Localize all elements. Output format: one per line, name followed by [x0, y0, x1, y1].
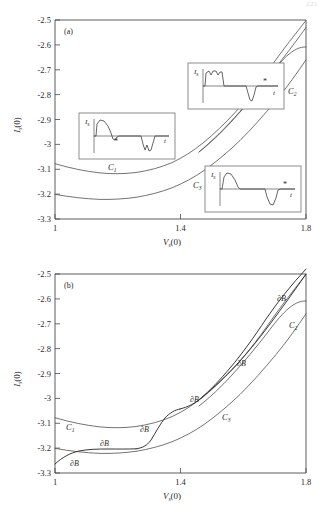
- panel-b: -2.5 -2.6 -2.7 -2.8 -2.9 -3 -3.1 -3.2 -3…: [0, 254, 324, 508]
- y-tick-7: -3.2: [38, 443, 51, 453]
- panel-a-label-c3: C3: [193, 180, 202, 191]
- y-tick-6: -3.1: [38, 418, 51, 428]
- panel-b-axes: [55, 274, 306, 473]
- panel-b-db-label-3: ∂B: [140, 425, 149, 434]
- panel-a-y-axis-label: Is(0): [12, 117, 23, 134]
- y-tick-2: -2.7: [38, 319, 51, 329]
- panel-b-boundary-upper: [180, 269, 306, 409]
- panel-b-plot: -2.5 -2.6 -2.7 -2.8 -2.9 -3 -3.1 -3.2 -3…: [0, 254, 324, 508]
- svg-text:Vs(0): Vs(0): [163, 491, 181, 502]
- inset-marker-br: *: [283, 180, 287, 189]
- panel-b-db-label-1: ∂B: [70, 459, 79, 468]
- x-tick-2: 1.8: [301, 477, 312, 487]
- y-axis-label-tail: (0): [12, 117, 22, 128]
- panel-b-db-label-2: ∂B: [100, 439, 109, 448]
- panel-b-x-ticklabels: 1 1.4 1.8: [53, 477, 311, 487]
- svg-text:Is(0): Is(0): [12, 117, 23, 134]
- panel-b-tag: (b): [64, 281, 74, 290]
- y-tick-8: -3.3: [38, 214, 51, 224]
- panel-b-y-ticklabels: -2.5 -2.6 -2.7 -2.8 -2.9 -3 -3.1 -3.2 -3…: [38, 269, 51, 478]
- panel-b-db-label-6: ∂B: [277, 294, 286, 303]
- x-tick-1: 1.4: [175, 477, 186, 487]
- panel-b-boundary-lower-left: [55, 449, 136, 464]
- panel-a-y-ticklabels: -2.5 -2.6 -2.7 -2.8 -2.9 -3 -3.1 -3.2 -3…: [38, 15, 51, 224]
- panel-a-y-ticks: [55, 20, 60, 219]
- panel-a-label-c2: C2: [288, 86, 297, 97]
- panel-a-x-ticklabels: 1 1.4 1.8: [53, 223, 311, 233]
- svg-text:Is(0): Is(0): [12, 371, 23, 388]
- inset-marker-tr: *: [263, 77, 267, 86]
- figure-container: -2.5 -2.6 -2.7 -2.8 -2.9 -3 -3.1 -3.2 -3…: [0, 0, 324, 508]
- panel-b-curve-c1: [55, 275, 306, 428]
- x-axis-label-tail: (0): [171, 491, 182, 501]
- panel-b-db-label-5: ∂B: [237, 359, 246, 368]
- x-axis-label-tail: (0): [171, 237, 182, 247]
- y-tick-6: -3.1: [38, 164, 51, 174]
- y-tick-1: -2.6: [38, 294, 51, 304]
- y-tick-5: -3: [44, 393, 51, 403]
- y-tick-1: -2.6: [38, 40, 51, 50]
- panel-a-inset-middle-left: Is t *: [79, 113, 175, 159]
- x-tick-0: 1: [53, 223, 57, 233]
- y-tick-8: -3.3: [38, 468, 51, 478]
- y-tick-3: -2.8: [38, 344, 51, 354]
- panel-b-x-ticks: [55, 468, 306, 473]
- panel-b-db-label-4: ∂B: [190, 395, 199, 404]
- panel-b-y-ticks: [55, 274, 60, 473]
- y-axis-label-tail: (0): [12, 371, 22, 382]
- panel-a-x-axis-label: Vs(0): [163, 237, 181, 248]
- svg-text:Vs(0): Vs(0): [163, 237, 181, 248]
- panel-b-x-axis-label: Vs(0): [163, 491, 181, 502]
- x-tick-0: 1: [53, 477, 57, 487]
- y-tick-4: -2.9: [38, 115, 51, 125]
- panel-b-curve-c3: [55, 314, 306, 454]
- panel-a-tag: (a): [64, 27, 73, 36]
- panel-b-label-c2: C2: [289, 320, 298, 331]
- panel-b-label-c3: C3: [222, 412, 231, 423]
- panel-a-inset-bottom-right: Is t *: [205, 166, 301, 212]
- y-tick-5: -3: [44, 139, 51, 149]
- x-tick-2: 1.8: [301, 223, 312, 233]
- y-tick-7: -3.2: [38, 189, 51, 199]
- panel-a: -2.5 -2.6 -2.7 -2.8 -2.9 -3 -3.1 -3.2 -3…: [0, 0, 324, 254]
- y-tick-4: -2.9: [38, 369, 51, 379]
- y-tick-0: -2.5: [38, 269, 51, 279]
- panel-a-plot: -2.5 -2.6 -2.7 -2.8 -2.9 -3 -3.1 -3.2 -3…: [0, 0, 324, 254]
- panel-a-x-ticks: [55, 214, 306, 219]
- panel-a-inset-top-right: Is t *: [188, 63, 284, 109]
- inset-marker-ml: *: [114, 137, 118, 146]
- x-tick-1: 1.4: [175, 223, 186, 233]
- panel-b-curve-c2: [199, 301, 306, 406]
- y-tick-0: -2.5: [38, 15, 51, 25]
- panel-b-label-c1: C1: [66, 422, 75, 433]
- y-tick-2: -2.7: [38, 65, 51, 75]
- y-tick-3: -2.8: [38, 90, 51, 100]
- panel-b-y-axis-label: Is(0): [12, 371, 23, 388]
- panel-a-label-c1: C1: [108, 162, 117, 173]
